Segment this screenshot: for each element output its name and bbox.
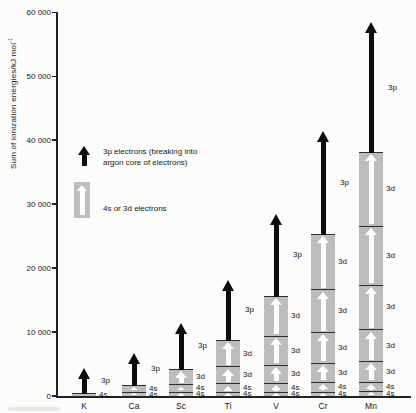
y-tick-mark — [52, 12, 58, 14]
orbital-electron-arrow-icon — [317, 334, 329, 341]
segment-orbital-label: 3d — [291, 311, 300, 320]
orbital-electron-arrow-icon — [130, 393, 138, 395]
element-label-Ca: Ca — [119, 401, 149, 411]
chart-canvas: Sum of ionization energies/kJ mol-1 3p e… — [0, 0, 416, 413]
element-label-Mn: Mn — [356, 401, 386, 411]
plot-area: 60 00050 00040 00030 00020 00010 00004s3… — [0, 0, 416, 413]
segment-orbital-label: 4s — [196, 383, 204, 392]
y-tick-mark — [52, 395, 58, 397]
orbital-electron-arrow-icon — [270, 338, 282, 345]
3p-arrow-label: 3p — [245, 305, 254, 314]
orbital-electron-arrow-icon — [177, 387, 185, 390]
segment-orbital-label: 4s — [243, 383, 251, 392]
y-tick-mark — [52, 331, 58, 333]
orbital-electron-arrow-icon — [365, 154, 377, 161]
3p-arrow-label: 3p — [293, 250, 302, 259]
segment-orbital-label: 4s — [99, 390, 107, 399]
y-tick-mark — [52, 139, 58, 141]
orbital-electron-arrow-icon — [365, 228, 377, 235]
y-tick-label: 60 000 — [9, 8, 51, 17]
segment-orbital-label: 3d — [243, 370, 252, 379]
orbital-electron-arrow-shaft — [369, 389, 373, 390]
orbital-electron-arrow-icon — [224, 393, 232, 396]
y-tick-label: 50 000 — [9, 72, 51, 81]
segment-orbital-label: 3d — [196, 372, 205, 381]
orbital-electron-arrow-shaft — [226, 349, 231, 365]
3p-arrow-label: 3p — [198, 341, 207, 350]
3p-arrow-shaft-Sc — [179, 333, 184, 370]
segment-orbital-label: 3d — [291, 369, 300, 378]
orbital-electron-arrow-shaft — [321, 372, 326, 380]
orbital-electron-arrow-shaft — [369, 294, 374, 328]
orbital-electron-arrow-shaft — [369, 339, 374, 360]
segment-orbital-label: 4s — [291, 383, 299, 392]
element-label-Cr: Cr — [308, 401, 338, 411]
segment-orbital-label: 3d — [243, 349, 252, 358]
segment-orbital-label: 4s — [149, 384, 157, 393]
orbital-electron-arrow-icon — [365, 332, 377, 339]
orbital-electron-arrow-icon — [365, 363, 377, 370]
y-tick-label: 20 000 — [9, 264, 51, 273]
3p-arrow-shaft-V — [274, 224, 279, 296]
3p-arrow-shaft-Ti — [226, 290, 231, 341]
segment-orbital-label: 3d — [386, 184, 395, 193]
y-tick-mark — [52, 267, 58, 269]
orbital-electron-arrow-icon — [317, 292, 329, 299]
element-label-Ti: Ti — [213, 401, 243, 411]
segment-orbital-label: 4s — [338, 382, 346, 391]
orbital-electron-arrow-shaft — [274, 345, 279, 363]
3p-arrow-label: 3p — [340, 178, 349, 187]
3p-arrow-label: 3p — [151, 364, 160, 373]
orbital-electron-arrow-icon — [367, 392, 375, 395]
orbital-electron-arrow-shaft — [321, 389, 325, 391]
x-axis-line — [56, 396, 411, 398]
orbital-electron-arrow-shaft — [369, 161, 374, 224]
orbital-electron-arrow-shaft — [321, 299, 326, 331]
segment-orbital-label: 3d — [386, 367, 395, 376]
segment-orbital-label: 3d — [338, 368, 347, 377]
orbital-electron-arrow-icon — [223, 386, 233, 391]
3p-arrow-label: 3p — [101, 376, 110, 385]
orbital-electron-arrow-icon — [177, 393, 185, 396]
orbital-electron-arrow-shaft — [274, 374, 279, 381]
segment-orbital-label: 3d — [338, 306, 347, 315]
3p-arrow-shaft-K — [82, 378, 87, 394]
orbital-electron-arrow-icon — [222, 342, 234, 349]
orbital-electron-arrow-shaft — [369, 235, 374, 283]
3p-arrow-label: 3p — [388, 83, 397, 92]
orbital-electron-arrow-shaft — [369, 370, 374, 380]
segment-orbital-label: 4s — [386, 382, 394, 391]
element-label-V: V — [261, 401, 291, 411]
segment-orbital-label: 3d — [338, 343, 347, 352]
element-label-K: K — [69, 401, 99, 411]
orbital-electron-arrow-icon — [222, 369, 234, 376]
segment-orbital-label: 3d — [386, 302, 395, 311]
orbital-electron-arrow-icon — [317, 236, 329, 243]
segment-orbital-label: 3d — [291, 346, 300, 355]
orbital-electron-arrow-icon — [270, 298, 282, 305]
y-axis-line — [56, 12, 58, 397]
segment-orbital-label: 3d — [338, 257, 347, 266]
segment-orbital-label: 3d — [386, 251, 395, 260]
orbital-electron-arrow-icon — [130, 387, 138, 390]
3p-arrow-shaft-Mn — [369, 32, 374, 153]
orbital-electron-arrow-icon — [270, 367, 282, 374]
element-label-Sc: Sc — [166, 401, 196, 411]
orbital-electron-arrow-shaft — [179, 378, 184, 383]
3p-arrow-shaft-Cr — [321, 141, 326, 234]
y-tick-label: 0 — [9, 392, 51, 401]
3p-arrow-shaft-Ca — [132, 363, 137, 386]
orbital-electron-arrow-shaft — [321, 243, 326, 288]
orbital-electron-arrow-icon — [175, 371, 187, 378]
orbital-electron-arrow-icon — [272, 393, 280, 396]
y-tick-mark — [52, 203, 58, 205]
orbital-electron-arrow-icon — [319, 393, 327, 396]
orbital-electron-arrow-icon — [365, 287, 377, 294]
orbital-electron-arrow-shaft — [321, 341, 326, 361]
y-tick-label: 30 000 — [9, 200, 51, 209]
segment-orbital-label: 3d — [386, 341, 395, 350]
y-tick-label: 10 000 — [9, 328, 51, 337]
y-tick-mark — [52, 76, 58, 78]
orbital-electron-arrow-icon — [317, 365, 329, 372]
orbital-electron-arrow-shaft — [274, 305, 279, 335]
